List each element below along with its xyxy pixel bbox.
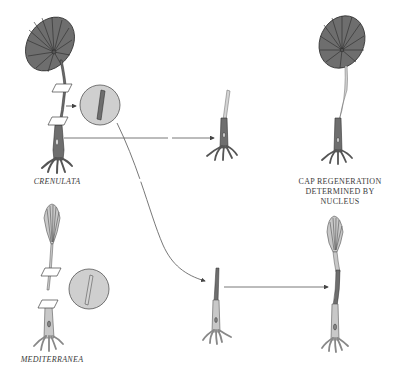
label-mediterranea: MEDITERRANEA — [12, 355, 92, 365]
mediterranea-donor — [34, 204, 63, 351]
label-result: CAP REGENERATION DETERMINED BY NUCLEUS — [290, 177, 390, 207]
crenulata-regenerated — [311, 8, 374, 164]
label-result-line3: NUCLEUS — [290, 197, 390, 207]
mediterranea-regenerated — [322, 216, 348, 352]
crenulata-donor — [15, 8, 84, 173]
graft-mediterranea-base — [203, 268, 231, 344]
crenulata-cap — [15, 8, 84, 81]
label-result-line2: DETERMINED BY — [290, 187, 390, 197]
cut-marker-lower — [48, 117, 68, 125]
nucleus-icon — [56, 139, 59, 145]
graft-crenulata-base — [207, 90, 237, 160]
mediterranea-stalk-segment-circle — [69, 269, 109, 309]
crenulata-stalk-segment-circle — [80, 85, 120, 125]
label-result-line1: CAP REGENERATION — [290, 177, 390, 187]
label-crenulata: CRENULATA — [22, 177, 92, 187]
cut-marker-upper — [52, 84, 72, 92]
arrow-stalk-to-mediterranea-graft — [117, 123, 205, 281]
